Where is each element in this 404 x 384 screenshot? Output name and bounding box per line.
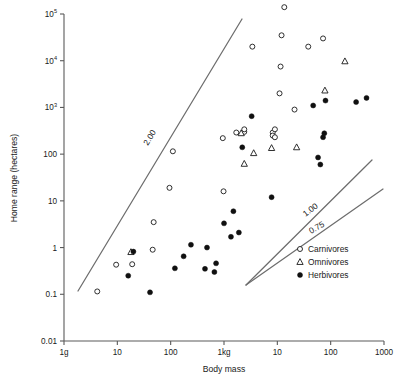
slope-label-2.00: 2.00: [141, 128, 158, 147]
legend: CarnivoresOmnivoresHerbivores: [297, 244, 349, 280]
scatter-plot-figure: 1051041031001010.10.01 1g101001kg1010010…: [0, 0, 404, 384]
series-carnivores: [95, 5, 326, 294]
data-point-omnivore: [251, 150, 257, 156]
y-tick-label: 10: [48, 197, 58, 206]
data-point-omnivore: [322, 87, 328, 93]
data-point-herbivore: [214, 261, 219, 266]
data-point-herbivore: [181, 254, 186, 259]
x-tick-label: 100: [324, 348, 338, 357]
y-axis-tick-labels: 1051041031001010.10.01: [41, 8, 57, 346]
y-tick-label: 105: [45, 8, 57, 19]
chart-canvas: 1051041031001010.10.01 1g101001kg1010010…: [0, 0, 404, 384]
x-tick-label: 1kg: [217, 348, 231, 357]
x-tick-label: 1g: [59, 348, 69, 357]
x-axis-tick-labels: 1g101001kg101001000: [59, 348, 393, 357]
data-point-herbivore: [222, 221, 227, 226]
data-point-omnivore: [268, 145, 274, 151]
data-point-omnivore: [293, 144, 299, 150]
y-axis-ticks: [60, 14, 64, 341]
data-point-herbivore: [364, 95, 369, 100]
data-point-carnivore: [250, 44, 255, 49]
x-tick-label: 1000: [375, 348, 394, 357]
data-point-carnivore: [95, 289, 100, 294]
data-point-herbivore: [322, 131, 327, 136]
data-point-herbivore: [202, 266, 207, 271]
data-point-omnivore: [241, 160, 247, 166]
data-point-carnivore: [282, 5, 287, 10]
data-point-herbivore: [269, 195, 274, 200]
data-point-herbivore: [148, 290, 153, 295]
reference-line-2.00: [78, 19, 242, 291]
data-point-herbivore: [172, 266, 177, 271]
data-point-carnivore: [220, 136, 225, 141]
data-point-herbivore: [323, 98, 328, 103]
data-point-herbivore: [204, 245, 209, 250]
data-point-carnivore: [114, 262, 119, 267]
axes-group: [64, 14, 384, 341]
slope-annotations-group: 2.001.000.75: [141, 128, 326, 236]
y-tick-label: 100: [43, 150, 57, 159]
data-point-carnivore: [170, 149, 175, 154]
legend-marker-omnivores: [297, 259, 303, 265]
x-tick-label: 100: [164, 348, 178, 357]
data-point-herbivore: [316, 155, 321, 160]
data-point-carnivore: [279, 33, 284, 38]
y-tick-label: 103: [45, 102, 57, 113]
data-point-herbivore: [126, 273, 131, 278]
data-point-carnivore: [221, 189, 226, 194]
data-point-carnivore: [292, 107, 297, 112]
data-point-herbivore: [212, 269, 217, 274]
data-point-herbivore: [354, 100, 359, 105]
legend-label-omnivores: Omnivores: [308, 257, 349, 267]
legend-label-herbivores: Herbivores: [308, 270, 349, 280]
legend-marker-carnivores: [298, 247, 303, 252]
data-point-carnivore: [167, 185, 172, 190]
data-point-herbivore: [236, 230, 241, 235]
data-point-herbivore: [228, 234, 233, 239]
data-point-herbivore: [131, 249, 136, 254]
y-tick-label: 0.1: [46, 290, 58, 299]
data-point-carnivore: [151, 220, 156, 225]
data-point-herbivore: [188, 242, 193, 247]
y-tick-label: 0.01: [41, 337, 57, 346]
data-point-carnivore: [306, 44, 311, 49]
y-tick-label: 104: [45, 55, 57, 66]
x-tick-label: 10: [113, 348, 123, 357]
legend-label-carnivores: Carnivores: [308, 244, 349, 254]
data-point-herbivore: [240, 145, 245, 150]
data-point-carnivore: [130, 262, 135, 267]
legend-marker-herbivores: [298, 273, 303, 278]
slope-label-1.00: 1.00: [301, 201, 320, 219]
data-point-herbivore: [231, 209, 236, 214]
data-point-carnivore: [278, 64, 283, 69]
y-tick-label: 1: [52, 244, 57, 253]
y-axis-title: Home range (hectares): [9, 134, 19, 223]
data-point-omnivore: [342, 58, 348, 64]
data-point-carnivore: [321, 36, 326, 41]
data-point-herbivore: [249, 114, 254, 119]
x-tick-label: 10: [273, 348, 283, 357]
x-axis-ticks: [64, 341, 384, 345]
data-point-carnivore: [272, 135, 277, 140]
data-point-carnivore: [242, 127, 247, 132]
data-point-herbivore: [318, 162, 323, 167]
data-point-herbivore: [311, 103, 316, 108]
data-point-carnivore: [150, 247, 155, 252]
data-point-carnivore: [272, 127, 277, 132]
data-point-carnivore: [234, 130, 239, 135]
data-point-carnivore: [277, 91, 282, 96]
x-axis-title: Body mass: [203, 364, 246, 374]
